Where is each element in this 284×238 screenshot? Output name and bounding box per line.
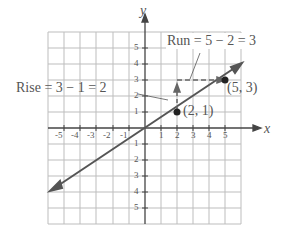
leader-lines [138,53,200,100]
x-tick: 2 [175,130,180,140]
run-label: Run = 5 − 2 = 3 [166,33,257,49]
y-tick: 3 [134,170,139,180]
y-tick: 4 [134,58,139,68]
y-tick: 2 [134,90,139,100]
x-tick: -3 [87,130,95,140]
y-tick: 1 [134,106,139,116]
x-tick: -2 [103,130,111,140]
y-tick: 5 [134,202,139,212]
rise-label: Rise = 3 − 1 = 2 [16,80,107,96]
x-tick: 5 [223,130,228,140]
y-tick: 5 [134,42,139,52]
y-axis-label: y [140,3,146,19]
y-tick: 2 [134,154,139,164]
y-tick: 3 [134,74,139,84]
y-tick: 4 [134,186,139,196]
y-tick: 1 [134,138,139,148]
point-label-5-3: (5, 3) [227,80,257,96]
x-tick: -4 [71,130,79,140]
x-tick: 4 [207,130,212,140]
x-tick: 1 [159,130,164,140]
x-tick: -1 [120,130,128,140]
point-label-2-1: (2, 1) [183,103,213,119]
x-axis-label: x [264,121,270,137]
x-tick: -5 [55,130,63,140]
x-tick: 3 [191,130,196,140]
